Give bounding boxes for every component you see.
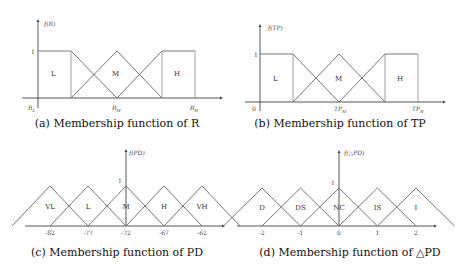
panel-c-label-L: L (86, 203, 91, 211)
panel-a-x-arrow (220, 97, 223, 100)
panel-a-y-arrow (37, 19, 40, 22)
panel-d-xtick: -1 (298, 229, 304, 236)
panel-d-y-arrow (338, 150, 341, 153)
panel-c-membership-pd: f(PD) 1 VLLMHVH-82-77-72-67-62 (c) Membe… (12, 149, 240, 259)
panel-d-label-I: I (415, 204, 418, 212)
panel-d-caption: (d) Membership function of △PD (259, 246, 441, 259)
panel-a-label-L: L (51, 70, 56, 78)
panel-c-xtick: -77 (83, 229, 93, 236)
panel-d-label-NC: NC (333, 204, 344, 212)
panel-a-label-H: H (174, 70, 180, 78)
panel-d-label-DS: DS (295, 204, 306, 212)
membership-functions-figure: f(R) 1 L M H RL RM RH (a) Membership fun… (0, 0, 468, 276)
panel-b-label-M: M (335, 75, 342, 83)
panel-b-xtick-tph: TPH (412, 105, 424, 114)
panel-c-xtick: -72 (121, 229, 131, 236)
panel-a-membership-r: f(R) 1 L M H RL RM RH (a) Membership fun… (22, 19, 223, 130)
panel-c-xtick: -62 (197, 229, 207, 236)
panel-c-label-M: M (122, 203, 129, 211)
panel-d-ytick-1: 1 (331, 179, 335, 186)
panel-a-xtick-rl: RL (27, 104, 36, 113)
panel-b-y-arrow (259, 24, 262, 27)
panel-d-xtick: 2 (414, 229, 418, 236)
panel-b-xtick-tpm: TPM (334, 105, 347, 114)
panel-c-ytick-1: 1 (118, 177, 122, 184)
panel-b-x-arrow (443, 101, 446, 104)
panel-b-ytick-1: 1 (254, 51, 258, 58)
panel-a-set-H (117, 51, 195, 98)
panel-d-label-IS: IS (374, 204, 382, 212)
panel-c-ylabel: f(PD) (128, 149, 145, 157)
panel-b-ylabel: f(TP) (267, 24, 284, 32)
panel-c-label-VL: VL (44, 203, 55, 211)
panel-a-caption: (a) Membership function of R (35, 117, 200, 130)
panel-d-membership-delta-pd: f(△PD) 1 DDSNCISI-2-1012 (d) Membership … (224, 149, 455, 259)
panel-b-label-H: H (397, 75, 403, 83)
panel-c-label-VH: VH (195, 203, 207, 211)
panel-d-xtick: -2 (259, 229, 265, 236)
panel-a-label-M: M (112, 70, 119, 78)
panel-c-xtick: -67 (159, 229, 169, 236)
panel-a-xtick-rh: RH (189, 104, 199, 113)
panel-d-label-D: D (259, 204, 265, 212)
panel-b-xtick-0: 0 (252, 105, 256, 112)
panel-a-ylabel: f(R) (43, 20, 56, 28)
panel-c-caption: (c) Membership function of PD (31, 246, 203, 259)
panel-c-xtick: -82 (45, 229, 55, 236)
panel-d-ylabel: f(△PD) (343, 149, 365, 157)
panel-a-xtick-rm: RM (111, 104, 122, 113)
panel-d-xtick: 0 (337, 229, 341, 236)
panel-c-label-H: H (161, 203, 167, 211)
panel-b-caption: (b) Membership function of TP (254, 117, 426, 130)
panel-a-ytick-1: 1 (31, 48, 35, 55)
panel-b-label-L: L (273, 75, 278, 83)
panel-c-y-arrow (125, 149, 128, 152)
panel-b-membership-tp: f(TP) 1 L M H 0 TPM TPH (b) Membership f… (245, 24, 446, 130)
panel-d-xtick: 1 (376, 229, 380, 236)
panel-d-x-arrow (434, 225, 437, 228)
